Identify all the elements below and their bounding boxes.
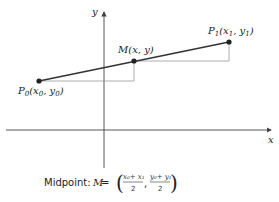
frac2-numerator: y₀+ y₁ (149, 173, 172, 181)
label-m: M(x, y) (117, 44, 154, 55)
midpoint-diagram: x y P0(x0, y0) M(x, y) P1(x1, y1) Midpoi… (0, 0, 279, 202)
y-axis-label: y (91, 6, 98, 17)
frac1-numerator: x₀+ x₁ (123, 173, 145, 181)
midpoint-formula: Midpoint: M = ( x₀+ x₁ 2 , y₀+ y₁ 2 ) (44, 171, 178, 195)
frac2-denominator: 2 (158, 185, 162, 193)
close-paren: ) (170, 171, 178, 195)
label-p1: P1(x1, y1) (207, 25, 254, 38)
caption-equals: = (101, 177, 109, 188)
x-axis-label: x (268, 134, 274, 145)
point-p1 (226, 39, 231, 44)
frac1-denominator: 2 (131, 185, 135, 193)
label-p0: P0(x0, y0) (17, 85, 64, 98)
caption-prefix: Midpoint: (44, 177, 91, 188)
point-m (131, 58, 136, 63)
point-p0 (36, 78, 41, 83)
frac-comma: , (144, 178, 147, 189)
